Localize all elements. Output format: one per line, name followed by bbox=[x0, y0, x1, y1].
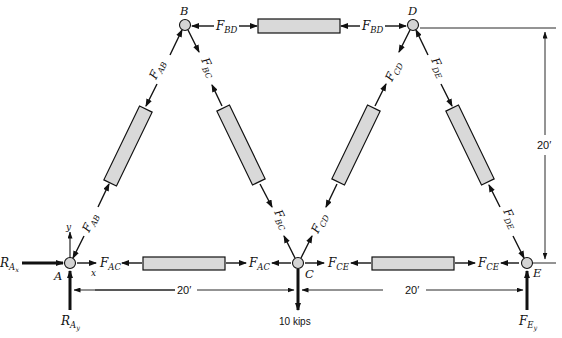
dimension-label-height: 20′ bbox=[537, 139, 551, 151]
joint-d: D bbox=[407, 4, 419, 31]
member-bc: FBC FBC bbox=[188, 30, 295, 258]
joint-a: A bbox=[53, 258, 76, 284]
dimension-label-ac: 20′ bbox=[177, 284, 191, 296]
joint-label-d: D bbox=[407, 4, 417, 18]
load-label: 10 kips bbox=[279, 316, 311, 327]
member-bd: FBD FBD bbox=[192, 19, 406, 35]
reaction-label-rax: RAx bbox=[0, 256, 19, 274]
force-label-cd-bottom: FCD bbox=[308, 210, 332, 237]
force-label-bc-bottom: FBC bbox=[269, 206, 293, 232]
joint-label-b: B bbox=[179, 4, 188, 18]
reaction-fey: FEy bbox=[518, 271, 538, 332]
member-ab: FAB FAB bbox=[73, 30, 182, 258]
reaction-label-ray: RAy bbox=[60, 314, 80, 332]
force-label-ab-bottom: FAB bbox=[79, 210, 102, 236]
dimension-span-ac: 20′ bbox=[74, 284, 294, 296]
force-label-de-top: FDE bbox=[426, 54, 450, 80]
joint-b: B bbox=[179, 4, 191, 31]
force-label-de-bottom: FDE bbox=[498, 205, 522, 231]
member-cd: FCD FCD bbox=[301, 30, 410, 258]
dimension-span-ce: 20′ bbox=[302, 284, 523, 296]
force-label-ac-right: FAC bbox=[248, 256, 270, 272]
force-label-cd-top: FCD bbox=[382, 58, 406, 85]
truss-diagram: FBD FBD FAC FAC FCE FCE FAB FA bbox=[0, 0, 562, 338]
force-label-ce-left: FCE bbox=[327, 256, 350, 272]
force-label-ce-right: FCE bbox=[477, 256, 500, 272]
joint-c: C bbox=[293, 258, 315, 282]
axis-label-x: x bbox=[91, 268, 96, 278]
force-label-bd-right: FBD bbox=[361, 19, 384, 35]
joint-e: E bbox=[522, 258, 543, 281]
force-label-ab-top: FAB bbox=[146, 57, 169, 83]
force-label-bd-left: FBD bbox=[215, 19, 238, 35]
axis-label-y: y bbox=[65, 222, 72, 232]
joint-label-a: A bbox=[53, 269, 62, 283]
force-label-bc-top: FBC bbox=[196, 54, 220, 80]
member-ac: FAC FAC bbox=[77, 256, 291, 272]
dimension-label-ce: 20′ bbox=[405, 284, 419, 296]
member-de: FDE FDE bbox=[416, 30, 524, 258]
reaction-label-fey: FEy bbox=[518, 314, 538, 332]
joint-label-c: C bbox=[305, 267, 314, 281]
reaction-ray: RAy bbox=[60, 271, 80, 332]
member-ce: FCE FCE bbox=[305, 256, 519, 272]
joint-label-e: E bbox=[532, 266, 542, 280]
force-label-ac-left: FAC bbox=[99, 256, 121, 272]
